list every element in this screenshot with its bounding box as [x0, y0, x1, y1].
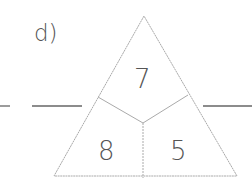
exercise-label: d)	[34, 20, 58, 46]
triangle-outline	[54, 16, 237, 176]
top-number: 7	[134, 64, 151, 94]
bottom-right-number: 5	[170, 136, 187, 166]
bottom-left-number: 8	[98, 136, 115, 166]
divider-left	[98, 97, 143, 123]
divider-right	[143, 95, 188, 123]
